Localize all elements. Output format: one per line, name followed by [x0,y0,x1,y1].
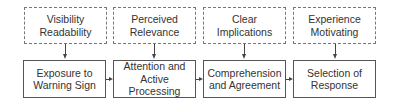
down-arrow-head-icon [242,54,246,59]
influence-label-line1: Clear [232,13,257,26]
influence-label-line1: Visibility [47,13,85,26]
stage-label-line1: Exposure to [36,67,92,80]
right-arrow-head-icon [289,77,293,81]
influence-label-line1: Experience [308,13,361,26]
stage-box-comprehension: Comprehension and Agreement [203,60,286,98]
influence-label-line2: Implications [217,26,272,39]
right-arrow-head-icon [199,77,203,81]
influence-box-experience-motivating: Experience Motivating [293,7,376,44]
influence-box-clear-implications: Clear Implications [203,7,286,44]
influence-box-perceived-relevance: Perceived Relevance [113,7,196,44]
influence-label-line2: Relevance [130,26,180,39]
down-arrow-head-icon [333,54,337,59]
stage-box-exposure: Exposure to Warning Sign [23,60,106,98]
stage-label-line2: and Agreement [209,79,280,92]
stage-label-line1: Comprehension [207,67,281,80]
stage-label-line2: Warning Sign [33,79,96,92]
right-arrow-head-icon [109,77,113,81]
influence-label-line1: Perceived [131,13,178,26]
stage-label-line1: Selection of [307,67,362,80]
influence-label-line2: Readability [40,26,92,39]
down-arrow-head-icon [152,54,156,59]
stage-label-line1: Attention and [124,60,186,73]
stage-label-line2: Response [311,79,358,92]
stage-box-attention: Attention and Active Processing [113,60,196,98]
down-arrow-head-icon [63,54,67,59]
influence-box-visibility-readability: Visibility Readability [24,7,107,44]
stage-box-selection: Selection of Response [293,60,376,98]
influence-label-line2: Motivating [311,26,359,39]
stage-label-line2: Active Processing [114,73,195,98]
